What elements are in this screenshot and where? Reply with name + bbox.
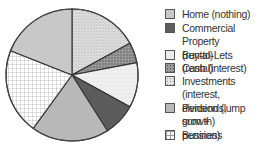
legend-swatch xyxy=(165,103,175,113)
legend-swatch xyxy=(165,130,175,140)
legend-swatch xyxy=(165,9,175,19)
legend-item: Home (nothing) xyxy=(165,8,250,21)
legend-swatch xyxy=(165,50,175,60)
legend-label: Business xyxy=(182,129,222,142)
legend-item: Business xyxy=(165,129,222,142)
legend-swatch xyxy=(165,76,175,86)
legend-item: Cash (interest) xyxy=(165,62,246,75)
pie-chart xyxy=(0,0,145,152)
pie-slices xyxy=(6,9,138,141)
legend-label: Cash (interest) xyxy=(182,62,246,75)
legend-swatch xyxy=(165,63,175,73)
legend-label: Home (nothing) xyxy=(182,8,250,21)
legend-swatch xyxy=(165,23,175,33)
